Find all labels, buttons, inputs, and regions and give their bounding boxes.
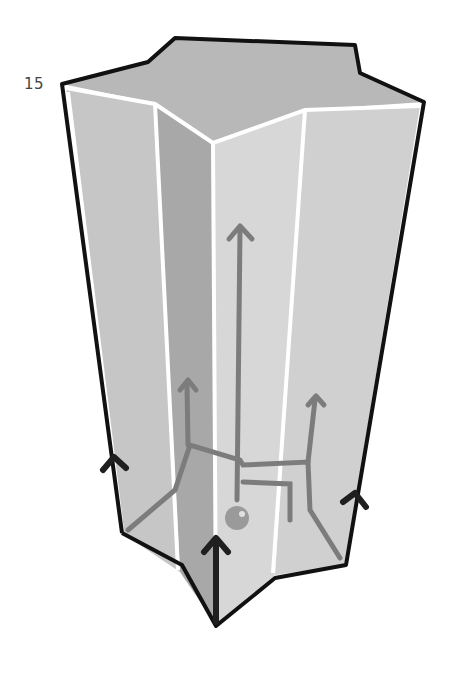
sphere-highlight (239, 511, 245, 517)
star-prism-diagram (0, 0, 462, 677)
sphere (225, 506, 249, 530)
